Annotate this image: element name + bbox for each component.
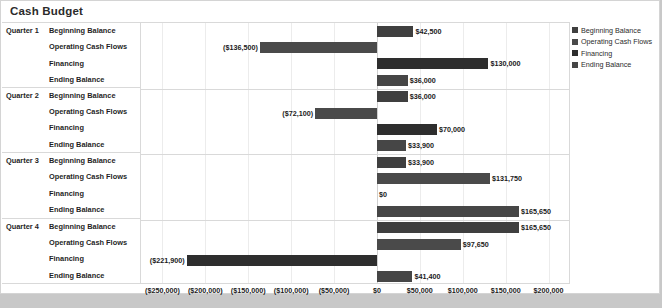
legend-item[interactable]: Operating Cash Flows xyxy=(572,37,658,48)
bar[interactable] xyxy=(377,140,406,151)
chart-legend: Beginning BalanceOperating Cash FlowsFin… xyxy=(572,25,658,71)
category-group-label: Quarter 4 xyxy=(6,222,39,231)
category-label: Ending Balance xyxy=(49,72,140,88)
bar[interactable] xyxy=(377,173,490,184)
bar[interactable] xyxy=(260,42,377,53)
bar-value-label: $0 xyxy=(379,189,387,200)
bar[interactable] xyxy=(377,222,519,233)
category-label: Financing xyxy=(49,186,140,202)
category-label: Operating Cash Flows xyxy=(49,235,140,251)
axis-tick-label: ($250,000) xyxy=(145,286,180,295)
bar[interactable] xyxy=(187,255,377,266)
group-separator-line xyxy=(141,220,569,221)
axis-tick-label: ($100,000) xyxy=(274,286,309,295)
category-group-label: Quarter 3 xyxy=(6,156,39,165)
bar[interactable] xyxy=(377,206,519,217)
legend-item[interactable]: Ending Balance xyxy=(572,60,658,71)
category-group: Quarter 4Beginning BalanceOperating Cash… xyxy=(2,219,140,285)
axis-tick-label: $100,000 xyxy=(448,286,478,295)
bar-value-label: $42,500 xyxy=(415,26,441,37)
axis-tick-label: $200,000 xyxy=(534,286,564,295)
legend-swatch-icon xyxy=(572,50,578,56)
bar-value-label: $165,650 xyxy=(521,222,551,233)
axis-tick-label: $150,000 xyxy=(491,286,521,295)
axis-tick-label: $50,000 xyxy=(407,286,433,295)
group-separator-line xyxy=(141,154,569,155)
axis-tick-label: ($150,000) xyxy=(231,286,266,295)
legend-label: Ending Balance xyxy=(581,60,631,69)
axis-tick-label: ($50,000) xyxy=(319,286,350,295)
bar-value-label: $33,900 xyxy=(408,140,434,151)
category-label: Financing xyxy=(49,120,140,136)
legend-swatch-icon xyxy=(572,62,578,68)
vertical-gridline xyxy=(162,23,163,283)
bar-value-label: $130,000 xyxy=(490,58,520,69)
plot-area: $42,500($136,500)$130,000$36,000$36,000(… xyxy=(141,22,570,284)
category-label: Ending Balance xyxy=(49,202,140,218)
vertical-gridline xyxy=(549,23,550,283)
legend-swatch-icon xyxy=(572,27,578,33)
vertical-gridline xyxy=(334,23,335,283)
bar-value-label: $36,000 xyxy=(410,91,436,102)
legend-label: Financing xyxy=(581,49,612,58)
category-label: Financing xyxy=(49,56,140,72)
category-group-label: Quarter 2 xyxy=(6,91,39,100)
legend-item[interactable]: Beginning Balance xyxy=(572,25,658,36)
bar-value-label: $41,400 xyxy=(414,271,440,282)
category-label: Beginning Balance xyxy=(49,88,140,104)
bar[interactable] xyxy=(377,91,408,102)
bar-value-label: $131,750 xyxy=(492,173,522,184)
bar[interactable] xyxy=(377,271,413,282)
category-label: Ending Balance xyxy=(49,137,140,153)
bar-value-label: $70,000 xyxy=(439,124,465,135)
axis-tick-label: ($200,000) xyxy=(188,286,223,295)
chart-card: Cash Budget Quarter 1Beginning BalanceOp… xyxy=(0,0,660,294)
category-label: Beginning Balance xyxy=(49,219,140,235)
chart-title: Cash Budget xyxy=(10,5,83,17)
category-label: Operating Cash Flows xyxy=(49,169,140,185)
vertical-gridline xyxy=(205,23,206,283)
category-group: Quarter 2Beginning BalanceOperating Cash… xyxy=(2,88,140,154)
legend-item[interactable]: Financing xyxy=(572,48,658,59)
category-label: Ending Balance xyxy=(49,268,140,284)
category-axis: Quarter 1Beginning BalanceOperating Cash… xyxy=(2,22,140,284)
axis-tick-label: $0 xyxy=(373,286,381,295)
category-group: Quarter 3Beginning BalanceOperating Cash… xyxy=(2,153,140,219)
legend-swatch-icon xyxy=(572,39,578,45)
vertical-gridline xyxy=(291,23,292,283)
bar[interactable] xyxy=(377,157,406,168)
category-label: Financing xyxy=(49,251,140,267)
bar[interactable] xyxy=(377,75,408,86)
bar[interactable] xyxy=(315,108,377,119)
category-group-label: Quarter 1 xyxy=(6,26,39,35)
bar[interactable] xyxy=(377,124,437,135)
category-label: Beginning Balance xyxy=(49,153,140,169)
bar[interactable] xyxy=(377,239,461,250)
bar-value-label: ($221,900) xyxy=(150,255,185,266)
bar-value-label: $97,650 xyxy=(463,239,489,250)
bar-value-label: $36,000 xyxy=(410,75,436,86)
bar-value-label: ($72,100) xyxy=(282,108,313,119)
legend-label: Beginning Balance xyxy=(581,26,641,35)
vertical-gridline xyxy=(248,23,249,283)
bar-value-label: ($136,500) xyxy=(223,42,258,53)
group-separator-line xyxy=(141,89,569,90)
category-label: Operating Cash Flows xyxy=(49,104,140,120)
value-axis: ($250,000)($200,000)($150,000)($100,000)… xyxy=(141,286,570,298)
category-group: Quarter 1Beginning BalanceOperating Cash… xyxy=(2,22,140,88)
bar[interactable] xyxy=(377,26,413,37)
category-label: Beginning Balance xyxy=(49,23,140,39)
bar[interactable] xyxy=(377,58,489,69)
category-label: Operating Cash Flows xyxy=(49,39,140,55)
bar-value-label: $165,650 xyxy=(521,206,551,217)
bar-value-label: $33,900 xyxy=(408,157,434,168)
legend-label: Operating Cash Flows xyxy=(581,37,652,46)
